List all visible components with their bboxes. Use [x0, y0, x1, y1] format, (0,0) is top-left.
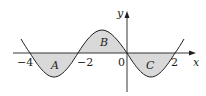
- region-label-b: B: [99, 36, 108, 49]
- tick-label-minus-2: −2: [77, 56, 93, 69]
- region-label-a: A: [50, 59, 59, 72]
- area-diagram: y x 0 −4 −2 2 A B C: [0, 0, 206, 96]
- tick-label-2: 2: [171, 56, 178, 69]
- region-label-c: C: [146, 59, 155, 72]
- origin-label: 0: [118, 56, 125, 69]
- y-axis-label: y: [116, 7, 124, 20]
- x-axis-arrow-icon: [189, 51, 196, 56]
- y-axis-arrow-icon: [125, 11, 130, 18]
- tick-label-minus-4: −4: [17, 56, 33, 69]
- x-axis-label: x: [193, 56, 200, 69]
